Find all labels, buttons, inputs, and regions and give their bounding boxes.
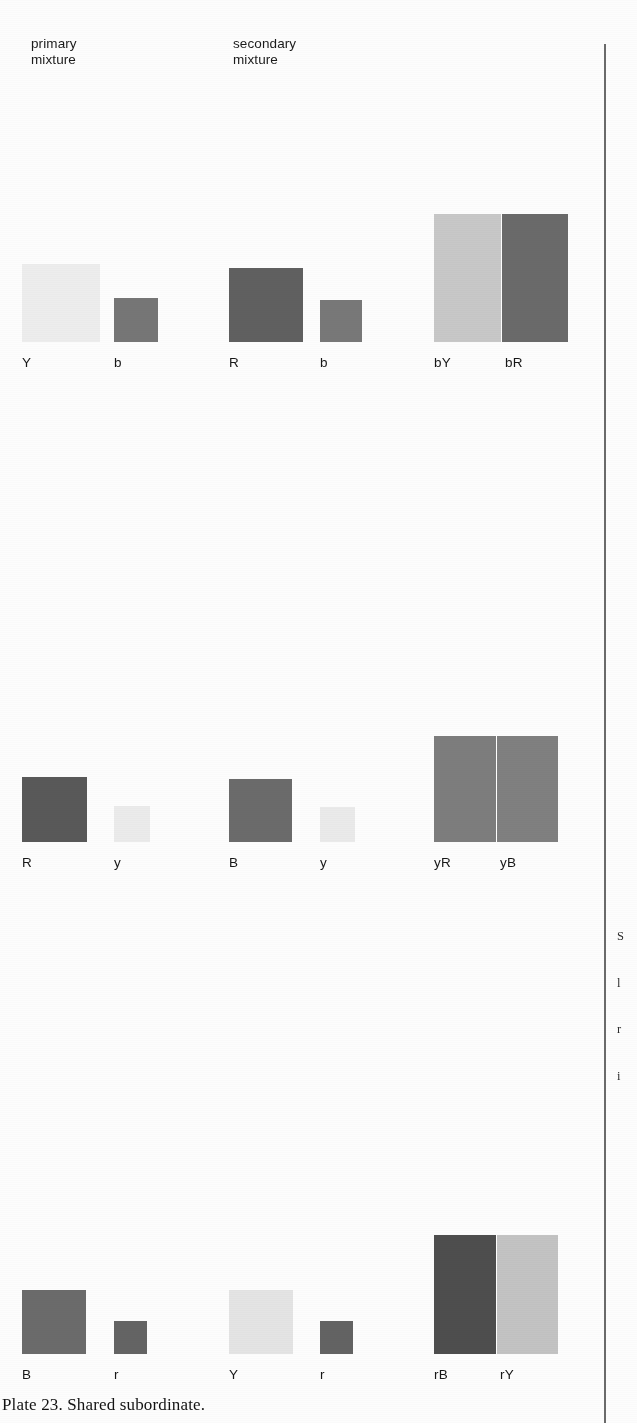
swatch-label-secondary-minor: y	[320, 855, 327, 870]
swatch-label-secondary-minor: r	[320, 1367, 325, 1382]
result-label-right: yB	[500, 855, 516, 870]
margin-note-line-3: r	[617, 1022, 637, 1038]
result-half-left	[434, 214, 501, 342]
swatch-primary-minor	[114, 298, 158, 342]
column-header-secondary-mixture: secondary mixture	[233, 36, 296, 68]
result-half-right	[497, 1235, 559, 1354]
swatch-label-primary-major: B	[22, 1367, 31, 1382]
margin-rule	[604, 44, 606, 1423]
margin-note-line-4: i	[617, 1069, 637, 1085]
swatch-primary-minor	[114, 1321, 147, 1354]
result-label-right: rY	[500, 1367, 514, 1382]
result-panel	[434, 1235, 558, 1354]
result-label-right: bR	[505, 355, 523, 370]
swatch-primary-major	[22, 777, 87, 842]
result-label-left: yR	[434, 855, 451, 870]
margin-note-line-2: l	[617, 976, 637, 992]
swatch-label-primary-minor: r	[114, 1367, 119, 1382]
plate-page: primary mixture secondary mixture S l r …	[0, 0, 637, 1423]
result-label-left: rB	[434, 1367, 448, 1382]
swatch-label-primary-major: Y	[22, 355, 31, 370]
result-panel	[434, 214, 568, 342]
swatch-label-secondary-major: R	[229, 355, 239, 370]
swatch-label-secondary-major: B	[229, 855, 238, 870]
result-half-right	[497, 736, 559, 842]
swatch-label-secondary-minor: b	[320, 355, 328, 370]
swatch-secondary-major	[229, 268, 303, 342]
result-label-left: bY	[434, 355, 451, 370]
swatch-primary-major	[22, 1290, 86, 1354]
margin-note-fragment: S l r i	[617, 898, 637, 1115]
swatch-primary-minor	[114, 806, 150, 842]
result-half-left	[434, 736, 496, 842]
margin-note-line-1: S	[617, 929, 637, 945]
plate-caption: Plate 23. Shared subordinate.	[2, 1394, 205, 1415]
swatch-label-primary-minor: b	[114, 355, 122, 370]
swatch-secondary-major	[229, 779, 292, 842]
result-half-left	[434, 1235, 496, 1354]
swatch-primary-major	[22, 264, 100, 342]
swatch-secondary-minor	[320, 807, 355, 842]
swatch-secondary-minor	[320, 1321, 353, 1354]
column-header-primary-mixture: primary mixture	[31, 36, 77, 68]
swatch-secondary-minor	[320, 300, 362, 342]
result-half-right	[502, 214, 569, 342]
swatch-secondary-major	[229, 1290, 293, 1354]
swatch-label-secondary-major: Y	[229, 1367, 238, 1382]
swatch-label-primary-major: R	[22, 855, 32, 870]
swatch-label-primary-minor: y	[114, 855, 121, 870]
result-panel	[434, 736, 558, 842]
